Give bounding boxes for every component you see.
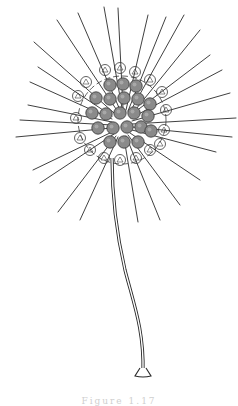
lattice-bar <box>83 79 89 84</box>
spine <box>33 132 112 170</box>
lattice-opening <box>155 139 166 150</box>
shell-cell <box>144 98 156 110</box>
shell-cell <box>128 107 140 119</box>
shell-cell <box>132 93 144 105</box>
lattice-bar <box>117 157 123 162</box>
shell-cell <box>100 108 112 120</box>
shell-cell <box>107 122 119 134</box>
cell-highlight <box>138 124 142 128</box>
lattice-opening <box>115 155 126 166</box>
cell-highlight <box>133 83 137 87</box>
shell-cell <box>104 79 116 91</box>
stalk-core <box>112 158 143 372</box>
cell-highlight <box>107 96 111 100</box>
lattice-opening <box>81 77 92 88</box>
shell-cell <box>117 78 129 90</box>
shell-cell <box>104 136 116 148</box>
cell-highlight <box>93 95 97 99</box>
lattice-bar <box>101 155 107 160</box>
cell-highlight <box>147 101 151 105</box>
shell-cell <box>90 92 102 104</box>
cell-highlight <box>131 110 135 114</box>
shell-cell <box>114 107 126 119</box>
spine <box>124 138 138 222</box>
cell-highlight <box>89 110 93 114</box>
cell-highlight <box>107 82 111 86</box>
spine <box>40 134 114 183</box>
shell-cell <box>86 107 98 119</box>
shell-cell <box>92 122 104 134</box>
lattice-bar <box>117 65 123 70</box>
cell-highlight <box>148 128 152 132</box>
lattice-bar <box>161 127 167 132</box>
spine <box>131 55 210 115</box>
shell-cell <box>118 136 130 148</box>
spine <box>34 42 114 113</box>
cell-highlight <box>103 111 107 115</box>
stalk-foot <box>135 368 151 377</box>
cell-highlight <box>110 125 114 129</box>
shell-cells <box>86 78 157 148</box>
cell-highlight <box>135 139 139 143</box>
cell-highlight <box>145 113 149 117</box>
cell-highlight <box>117 110 121 114</box>
shell-cell <box>121 121 133 133</box>
cell-highlight <box>120 81 124 85</box>
cell-highlight <box>121 95 125 99</box>
shell-cell <box>118 92 130 104</box>
shell-cell <box>145 125 157 137</box>
cell-highlight <box>124 124 128 128</box>
shell-cell <box>130 80 142 92</box>
shell-cell <box>132 136 144 148</box>
cell-highlight <box>95 125 99 129</box>
lattice-opening <box>71 113 82 124</box>
shell-cell <box>142 110 154 122</box>
lattice-opening <box>75 133 86 144</box>
figure-caption: Figure 1.17 <box>0 396 238 406</box>
cell-highlight <box>107 139 111 143</box>
cell-highlight <box>135 96 139 100</box>
shell-cell <box>104 93 116 105</box>
stalk <box>112 158 143 372</box>
cell-highlight <box>121 139 125 143</box>
lattice-opening <box>100 65 111 76</box>
lattice-opening <box>115 63 126 74</box>
